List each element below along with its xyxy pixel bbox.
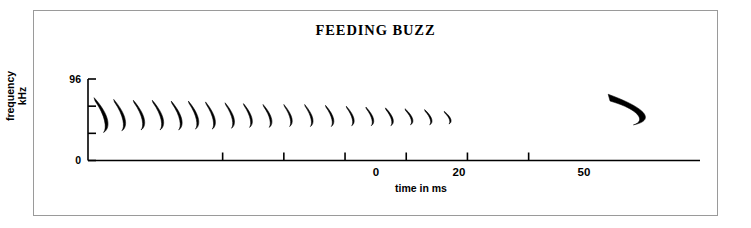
call-trace xyxy=(263,104,272,127)
call-trace xyxy=(243,104,252,128)
call-trace xyxy=(385,108,393,126)
y-axis-ticks xyxy=(88,79,96,161)
call-trace xyxy=(94,98,108,133)
call-trace xyxy=(225,103,234,128)
call-trace xyxy=(206,102,216,129)
call-trace xyxy=(114,99,126,130)
call-trace xyxy=(346,106,354,126)
figure-root: FEEDING BUZZ frequency kHz 96 0 time in … xyxy=(0,0,751,228)
call-trace xyxy=(133,100,144,130)
call-trace xyxy=(152,100,163,130)
call-trace xyxy=(171,101,182,130)
call-traces xyxy=(94,94,645,132)
call-trace xyxy=(425,110,432,125)
call-trace xyxy=(325,105,333,126)
x-axis-ticks xyxy=(223,153,529,161)
call-trace xyxy=(284,104,292,126)
call-trace xyxy=(405,109,413,125)
call-trace xyxy=(608,94,645,125)
call-trace xyxy=(366,107,374,126)
sonogram-plot xyxy=(0,0,751,228)
call-trace xyxy=(188,101,198,129)
call-trace xyxy=(444,111,451,124)
call-trace xyxy=(305,104,313,126)
